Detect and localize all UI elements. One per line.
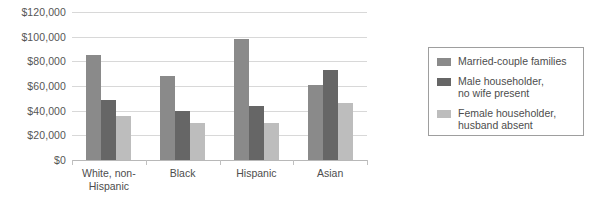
x-axis-category-label: Asian xyxy=(293,167,367,180)
legend-item-label: Male householder, no wife present xyxy=(458,75,544,100)
x-axis-category-label: Hispanic xyxy=(220,167,294,180)
y-axis-tick-label: $120,000 xyxy=(21,6,66,18)
x-axis-tick xyxy=(220,160,221,165)
bar xyxy=(190,123,205,160)
y-axis-tick-label: $60,000 xyxy=(27,80,66,92)
bar xyxy=(264,123,279,160)
x-axis-tick xyxy=(367,160,368,165)
y-axis-tick-label: $100,000 xyxy=(21,31,66,43)
legend-item: Male householder, no wife present xyxy=(437,75,577,100)
bar xyxy=(234,39,249,160)
x-axis-tick xyxy=(146,160,147,165)
bar-group xyxy=(72,12,146,160)
bar xyxy=(338,103,353,160)
y-axis: $120,000$100,000$80,000$60,000$40,000$20… xyxy=(0,12,66,160)
bar xyxy=(249,106,264,160)
legend-swatch-icon xyxy=(437,78,451,86)
chart-legend: Married-couple familiesMale householder,… xyxy=(428,47,584,136)
bars-layer xyxy=(72,12,367,160)
x-axis: White, non- HispanicBlackHispanicAsian xyxy=(72,160,367,201)
bar xyxy=(101,100,116,160)
x-axis-tick xyxy=(293,160,294,165)
y-axis-tick-label: $0 xyxy=(54,154,66,166)
legend-item: Female householder, husband absent xyxy=(437,107,577,132)
bar xyxy=(160,76,175,160)
y-axis-tick-label: $20,000 xyxy=(27,129,66,141)
bar xyxy=(175,111,190,160)
bar-group xyxy=(146,12,220,160)
bar-group xyxy=(293,12,367,160)
legend-item-label: Female householder, husband absent xyxy=(458,107,556,132)
grouped-bar-chart: $120,000$100,000$80,000$60,000$40,000$20… xyxy=(0,0,590,201)
y-axis-tick-label: $40,000 xyxy=(27,105,66,117)
bar-group xyxy=(220,12,294,160)
legend-item: Married-couple families xyxy=(437,55,577,68)
bar xyxy=(116,116,131,160)
bar xyxy=(323,70,338,160)
x-axis-category-label: White, non- Hispanic xyxy=(72,167,146,192)
x-axis-tick xyxy=(72,160,73,165)
y-axis-tick-label: $80,000 xyxy=(27,55,66,67)
x-axis-category-label: Black xyxy=(146,167,220,180)
legend-swatch-icon xyxy=(437,58,451,66)
bar xyxy=(308,85,323,160)
legend-item-label: Married-couple families xyxy=(458,55,567,68)
bar xyxy=(86,55,101,160)
legend-swatch-icon xyxy=(437,110,451,118)
